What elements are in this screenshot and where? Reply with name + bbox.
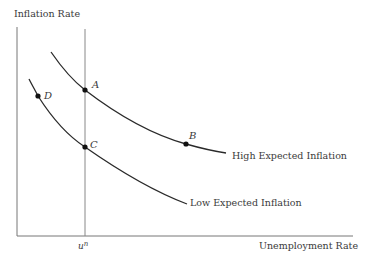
natural-rate-label: un [78,240,89,251]
point-d-label: D [43,90,52,101]
point-a-marker [82,87,87,92]
point-d-marker [35,93,40,98]
high-curve-label: High Expected Inflation [232,150,347,161]
point-a-label: A [91,79,99,90]
low-curve-label: Low Expected Inflation [190,197,302,208]
point-b-marker [183,141,188,146]
point-b-label: B [188,130,196,141]
x-axis-label: Unemployment Rate [259,240,358,251]
low-expected-inflation-curve [29,79,187,204]
phillips-curve-diagram: A B C D Inflation Rate Unemployment Rate… [0,0,371,260]
point-c-label: C [90,139,98,150]
point-c-marker [82,144,87,149]
y-axis-label: Inflation Rate [14,8,80,19]
high-expected-inflation-curve [51,52,226,153]
